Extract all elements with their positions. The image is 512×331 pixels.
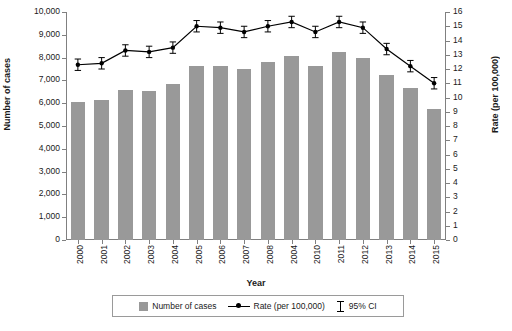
x-tick-mark (149, 240, 150, 244)
y-tick-right: 2 (453, 206, 458, 216)
y-tick-right: 4 (453, 177, 458, 187)
rate-point-with-ci (431, 78, 437, 89)
x-tick-label: 2008 (265, 245, 275, 264)
x-tick-label: 2007 (241, 245, 251, 264)
y-tick-right: 14 (453, 35, 462, 45)
x-tick-label: 2001 (99, 245, 109, 264)
rate-point-with-ci (312, 26, 318, 37)
y-tick-mark-right (446, 55, 450, 56)
y-tick-right: 12 (453, 63, 462, 73)
x-tick-label: 2003 (146, 245, 156, 264)
legend-item-rate: Rate (per 100,000) (228, 301, 325, 311)
y-tick-mark-left (62, 12, 66, 13)
x-tick-label: 2011 (336, 245, 346, 263)
x-tick-label: 2004 (289, 245, 299, 264)
y-tick-mark-right (446, 183, 450, 184)
y-tick-mark-right (446, 98, 450, 99)
y-tick-mark-right (446, 226, 450, 227)
y-tick-left: 8,000 (18, 52, 60, 62)
x-tick-mark (78, 240, 79, 244)
y-tick-left: 3,000 (18, 166, 60, 176)
y-tick-right: 9 (453, 106, 458, 116)
y-tick-mark-right (446, 26, 450, 27)
x-tick-label: 2004 (170, 245, 180, 264)
y-tick-right: 5 (453, 163, 458, 173)
x-tick-mark (387, 240, 388, 244)
y-tick-right: 8 (453, 120, 458, 130)
y-tick-mark-left (62, 35, 66, 36)
x-tick-label: 2002 (122, 245, 132, 264)
rate-point-with-ci (383, 43, 389, 54)
x-tick-label: 2006 (217, 245, 227, 264)
y-tick-mark-left (62, 149, 66, 150)
y-tick-mark-left (62, 172, 66, 173)
x-tick-mark (410, 240, 411, 244)
y-tick-left: 10,000 (18, 6, 60, 16)
y-tick-mark-left (62, 103, 66, 104)
chart-legend: Number of cases Rate (per 100,000) 95% C… (112, 295, 404, 317)
y-axis-left-title: Number of cases (2, 58, 12, 131)
y-tick-left: 2,000 (18, 188, 60, 198)
x-tick-mark (125, 240, 126, 244)
y-tick-right: 13 (453, 49, 462, 59)
y-tick-right: 7 (453, 134, 458, 144)
rate-point-with-ci (407, 60, 413, 71)
y-tick-right: 0 (453, 234, 458, 244)
legend-swatch-icon (139, 302, 148, 311)
x-tick-mark (315, 240, 316, 244)
legend-label-cases: Number of cases (152, 301, 216, 311)
y-tick-mark-right (446, 197, 450, 198)
y-tick-mark-right (446, 140, 450, 141)
x-tick-label: 2015 (431, 245, 441, 264)
legend-label-ci: 95% CI (349, 301, 377, 311)
legend-item-cases: Number of cases (139, 301, 216, 311)
x-tick-label: 2014 (407, 245, 417, 264)
x-tick-mark (268, 240, 269, 244)
y-tick-mark-right (446, 83, 450, 84)
y-tick-left: 4,000 (18, 143, 60, 153)
chart-container: Number of cases Rate (per 100,000) Year … (0, 0, 512, 331)
x-tick-mark (197, 240, 198, 244)
rate-line (78, 22, 434, 83)
plot-area (66, 12, 446, 240)
y-axis-right-title-text: Rate (per 100,000) (490, 56, 500, 133)
y-tick-mark-left (62, 80, 66, 81)
legend-item-ci: 95% CI (336, 301, 377, 312)
y-tick-mark-left (62, 126, 66, 127)
legend-errorbar-icon (336, 301, 345, 312)
y-tick-mark-right (446, 41, 450, 42)
y-tick-mark-right (446, 240, 450, 241)
x-tick-mark (244, 240, 245, 244)
y-tick-left: 5,000 (18, 120, 60, 130)
legend-line-point-icon (228, 302, 250, 311)
y-tick-mark-left (62, 194, 66, 195)
y-tick-mark-left (62, 58, 66, 59)
y-tick-right: 3 (453, 191, 458, 201)
x-tick-label: 2013 (384, 245, 394, 264)
x-axis-title: Year (0, 278, 512, 288)
y-tick-right: 15 (453, 20, 462, 30)
y-tick-left: 1,000 (18, 211, 60, 221)
y-tick-mark-left (62, 240, 66, 241)
y-tick-mark-right (446, 112, 450, 113)
x-tick-mark (102, 240, 103, 244)
y-tick-left: 0 (18, 234, 60, 244)
y-tick-mark-right (446, 126, 450, 127)
x-tick-mark (173, 240, 174, 244)
rate-line-series (66, 12, 446, 240)
y-axis-left-title-text: Number of cases (2, 58, 12, 131)
y-tick-mark-right (446, 169, 450, 170)
y-tick-right: 11 (453, 77, 462, 87)
x-tick-mark (292, 240, 293, 244)
x-tick-mark (220, 240, 221, 244)
x-tick-mark (434, 240, 435, 244)
x-tick-label: 2010 (312, 245, 322, 264)
y-axis-right-title: Rate (per 100,000) (490, 56, 500, 133)
y-tick-right: 1 (453, 220, 458, 230)
x-tick-label: 2012 (360, 245, 370, 264)
y-tick-right: 16 (453, 6, 462, 16)
y-tick-left: 9,000 (18, 29, 60, 39)
y-tick-right: 10 (453, 92, 462, 102)
y-tick-left: 7,000 (18, 74, 60, 84)
y-tick-mark-right (446, 212, 450, 213)
